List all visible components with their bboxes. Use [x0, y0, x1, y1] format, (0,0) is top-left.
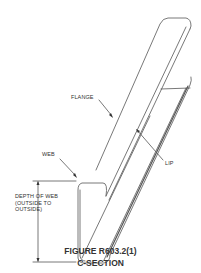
web-label: WEB	[42, 151, 55, 158]
flange-leader	[99, 100, 112, 116]
depth-label-line-1: DEPTH OF WEB	[15, 193, 58, 200]
flange-label: FLANGE	[71, 94, 94, 101]
depth-label-line-3: OUTSIDE)	[15, 206, 58, 213]
lip-label: LIP	[165, 160, 174, 167]
flange-inner-edge	[106, 27, 186, 196]
flange-arrowhead	[109, 113, 113, 118]
c-section-drawing	[0, 0, 201, 273]
figure-subtitle: C-SECTION	[0, 258, 201, 268]
flange-outline	[96, 18, 191, 170]
figure-title: FIGURE R603.2(1)	[0, 246, 201, 256]
depth-arrow-top	[37, 181, 40, 185]
lip-inner	[107, 86, 188, 257]
depth-of-web-label: DEPTH OF WEB (OUTSIDE TO OUTSIDE)	[15, 193, 58, 213]
flange-edge	[109, 29, 190, 200]
web-leader	[60, 159, 75, 175]
